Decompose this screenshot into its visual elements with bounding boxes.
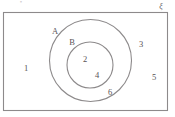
set-label-b: B — [69, 38, 75, 47]
set-a-circle — [50, 20, 132, 102]
element-3: 3 — [139, 40, 143, 49]
element-6: 6 — [108, 88, 112, 97]
element-5: 5 — [152, 73, 156, 82]
element-4: 4 — [95, 71, 99, 80]
element-2: 2 — [83, 55, 87, 64]
venn-diagram-canvas — [0, 0, 175, 117]
element-1: 1 — [24, 64, 28, 73]
set-label-a: A — [52, 27, 58, 36]
universal-set-symbol: ξ — [159, 3, 162, 11]
set-b-circle — [67, 42, 113, 88]
scan-artifact: • — [20, 0, 22, 6]
venn-diagram-figure: • ξ A B 1 2 3 4 5 6 — [0, 0, 175, 117]
